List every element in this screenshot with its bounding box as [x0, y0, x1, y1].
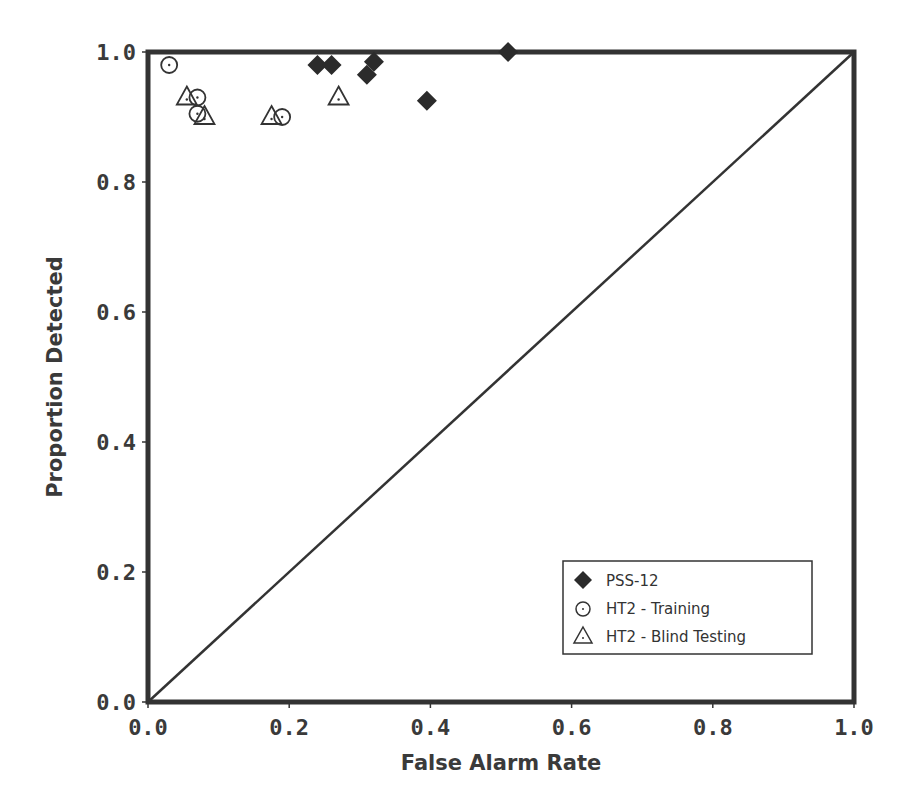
y-tick-label: 0.0 [96, 690, 136, 715]
circle-marker-dot [196, 96, 198, 98]
circle-marker-dot [281, 116, 283, 118]
circle-center-dot-icon [582, 608, 584, 610]
y-tick-label: 0.2 [96, 560, 136, 585]
triangle-marker-dot [337, 98, 339, 100]
legend: PSS-12 HT2 - Training HT2 - Blind Testin… [563, 561, 812, 654]
circle-marker-dot [168, 64, 170, 66]
x-tick-label: 0.0 [128, 715, 168, 740]
y-tick-label: 1.0 [96, 40, 136, 65]
x-axis-title: False Alarm Rate [401, 751, 601, 775]
triangle-marker-dot [203, 118, 205, 120]
legend-label: PSS-12 [606, 572, 659, 590]
x-tick-label: 0.6 [552, 715, 592, 740]
y-tick-label: 0.4 [96, 430, 136, 455]
x-tick-label: 0.8 [693, 715, 733, 740]
y-axis-title: Proportion Detected [43, 256, 67, 498]
legend-label: HT2 - Blind Testing [606, 628, 746, 646]
y-tick-label: 0.6 [96, 300, 136, 325]
triangle-center-dot-icon [582, 637, 584, 639]
circle-marker-dot [196, 113, 198, 115]
roc-scatter-chart: 0.00.20.40.60.81.00.00.20.40.60.81.0 PSS… [0, 0, 913, 812]
triangle-marker-dot [186, 98, 188, 100]
y-tick-label: 0.8 [96, 170, 136, 195]
x-tick-label: 1.0 [834, 715, 874, 740]
x-tick-label: 0.2 [269, 715, 309, 740]
x-tick-label: 0.4 [411, 715, 451, 740]
legend-label: HT2 - Training [606, 600, 710, 618]
triangle-marker-dot [270, 118, 272, 120]
